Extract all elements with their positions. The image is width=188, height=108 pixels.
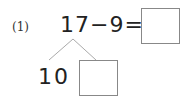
decomposition-right-box[interactable] (79, 60, 118, 96)
decomposition-left-value: 10 (38, 64, 70, 89)
